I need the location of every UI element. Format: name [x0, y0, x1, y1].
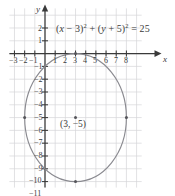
y-tick-label--5: −5: [34, 114, 43, 122]
y-tick-label--3: −3: [34, 88, 43, 96]
x-tick-label-7: 7: [114, 57, 118, 65]
y-tick-label--8: −8: [34, 152, 43, 160]
y-axis-label: y: [36, 5, 40, 14]
y-tick-label--4: −4: [34, 101, 43, 109]
equation-annotation: (x − 3)2 + (y + 5)2 = 25: [56, 24, 150, 34]
x-tick-label-8: 8: [124, 57, 128, 65]
x-axis-label: x: [163, 55, 167, 64]
point-top: [74, 52, 77, 55]
grid-lines: [9, 8, 141, 187]
y-tick-label-2: 2: [38, 25, 42, 33]
y-tick-label--7: −7: [34, 139, 43, 147]
x-tick-label-6: 6: [104, 57, 108, 65]
y-tick-label--1: −1: [34, 63, 43, 71]
y-tick-label-1: 1: [38, 37, 42, 45]
equation-minus: −: [64, 23, 75, 34]
equation-rhs: 25: [140, 23, 150, 34]
point-left: [23, 116, 26, 119]
equation-equals: =: [129, 23, 140, 34]
point-right: [125, 116, 128, 119]
x-tick-label-3: 3: [73, 57, 77, 65]
x-tick-label--3: −3: [9, 57, 18, 65]
x-tick-label-4: 4: [83, 57, 87, 65]
center-point-label: (3, −5): [60, 120, 86, 130]
x-tick-label--2: −2: [19, 57, 28, 65]
graph-figure: (x − 3)2 + (y + 5)2 = 25 (3, −5) x y −3 …: [0, 0, 175, 196]
equation-plus: +: [87, 23, 98, 34]
y-axis: [42, 5, 48, 188]
x-tick-label-2: 2: [63, 57, 67, 65]
y-tick-label--10: −10: [29, 177, 42, 185]
x-tick-label-1: 1: [53, 57, 57, 65]
y-tick-label--11: −11: [29, 190, 41, 196]
y-tick-label--9: −9: [34, 165, 43, 173]
y-tick-label--6: −6: [34, 127, 43, 135]
point-bottom: [74, 180, 77, 183]
equation-plus-inner: +: [106, 23, 117, 34]
y-tick-label--2: −2: [34, 76, 43, 84]
x-tick-label-5: 5: [93, 57, 97, 65]
